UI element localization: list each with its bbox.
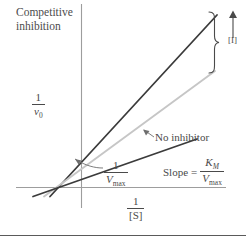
plot-title: Competitiveinhibition <box>16 5 102 33</box>
y-axis-denominator-subscript: 0 <box>39 111 43 120</box>
plot-title-line-2: inhibition <box>16 20 61 32</box>
slope-equals-sign: = <box>191 166 197 178</box>
slope-annotation: Slope = KM Vmax <box>163 157 224 186</box>
plot-canvas <box>0 0 246 240</box>
no-inhibitor-leader-arrowhead <box>143 130 150 136</box>
competitive-inhibition-figure: Competitiveinhibition 1 v0 1 [S] 1 Vmax … <box>0 0 246 240</box>
x-axis-numerator: 1 <box>127 196 144 209</box>
vmax-denominator: Vmax <box>104 173 128 188</box>
slope-numerator-subscript: M <box>213 162 219 171</box>
bottom-divider <box>0 235 246 236</box>
inhibitor-concentration-label: [I] <box>228 35 237 45</box>
slope-denominator-symbol: V <box>202 172 209 184</box>
no-inhibitor-annotation: No inhibitor <box>155 131 209 143</box>
vmax-intercept-label: 1 Vmax <box>104 160 128 187</box>
y-axis-label: 1 v0 <box>32 92 45 119</box>
y-axis-denominator: v0 <box>32 105 45 120</box>
vmax-fraction: 1 Vmax <box>104 160 128 187</box>
plot-title-line-1: Competitive <box>16 6 73 18</box>
slope-numerator: KM <box>200 157 224 172</box>
slope-fraction: KM Vmax <box>200 157 224 186</box>
x-axis-denominator: [S] <box>127 209 144 222</box>
x-axis-fraction: 1 [S] <box>127 196 144 221</box>
vmax-denominator-symbol: V <box>106 173 113 185</box>
slope-denominator-subscript: max <box>209 178 222 187</box>
slope-denominator: Vmax <box>200 172 224 187</box>
vmax-numerator: 1 <box>104 160 128 173</box>
vmax-denominator-subscript: max <box>113 179 126 188</box>
y-axis-numerator: 1 <box>32 92 45 105</box>
slope-numerator-symbol: K <box>205 156 212 168</box>
slope-word: Slope <box>163 166 188 178</box>
inhibitor-arrow-head <box>229 11 237 19</box>
x-axis-label: 1 [S] <box>127 196 144 221</box>
y-axis-fraction: 1 v0 <box>32 92 45 119</box>
